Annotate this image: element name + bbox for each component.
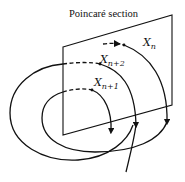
crossing-point-xn1 [91,89,94,92]
trajectory-outer-dashed [63,63,100,65]
section-title: Poincaré section [69,8,138,19]
label-xn1: Xn+1 [94,76,119,91]
label-xn: Xn [143,36,156,51]
arrow-xn-icon [114,40,121,47]
poincare-section-diagram [0,0,185,182]
poincare-plane [63,15,172,135]
label-xn1-sub: n+1 [102,82,119,91]
label-xn-sub: n [151,42,156,51]
trajectory-xn-dashed [103,43,124,45]
label-xn-base: X [143,36,151,49]
label-xn2: Xn+2 [100,53,125,68]
crossing-point-xn [123,44,126,47]
label-xn2-sub: n+2 [108,59,125,68]
label-xn1-base: X [94,76,102,89]
label-xn2-base: X [100,53,108,66]
trajectory-inner-dashed [63,89,92,92]
trajectory-xn-front [124,45,167,122]
